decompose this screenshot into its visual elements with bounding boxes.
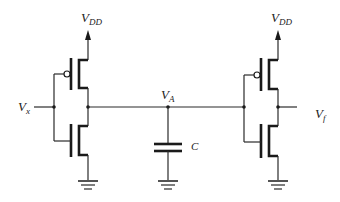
nmos-right xyxy=(244,124,278,158)
ground-capacitor xyxy=(158,181,178,189)
vdd-label-left: VDD xyxy=(81,10,102,27)
pmos-right xyxy=(244,58,278,91)
vdd-arrow-left xyxy=(85,30,91,60)
output-label-vf: Vf xyxy=(315,106,327,123)
input-junction xyxy=(52,105,56,109)
right-input-junction xyxy=(242,105,246,109)
vdd-arrow-right xyxy=(275,30,281,60)
ground-right xyxy=(268,181,288,189)
capacitor xyxy=(154,107,182,180)
capacitor-label: C xyxy=(191,140,199,152)
input-label-vx: Vx xyxy=(18,99,30,116)
pmos-left xyxy=(54,58,88,90)
circuit-diagram: VDD VDD Vx VA Vf C xyxy=(0,0,340,202)
ground-left xyxy=(78,181,98,189)
node-label-va: VA xyxy=(161,87,175,104)
left-inverter xyxy=(34,30,98,189)
right-inverter xyxy=(242,30,297,189)
output-junction xyxy=(276,105,280,109)
vdd-label-right: VDD xyxy=(271,10,292,27)
nmos-left xyxy=(54,124,88,157)
